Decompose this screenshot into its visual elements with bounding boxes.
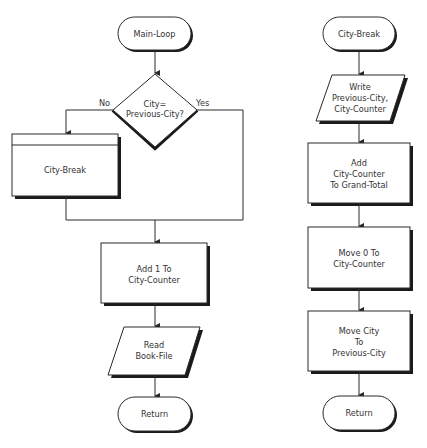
city-break-start-label: City-Break bbox=[338, 29, 380, 39]
yes-branch-label: Yes bbox=[195, 98, 209, 108]
write-output-io: Write Previous-City, City-Counter bbox=[316, 75, 408, 124]
add-total-line2: City-Counter bbox=[333, 169, 385, 179]
left-return-label: Return bbox=[141, 409, 168, 419]
city-break-subprocess: City-Break bbox=[12, 134, 121, 199]
add-counter-process: Add 1 To City-Counter bbox=[101, 243, 210, 306]
add-grand-total-process: Add City-Counter To Grand-Total bbox=[308, 143, 413, 206]
move-city-process: Move City To Previous-City bbox=[308, 311, 413, 374]
move-city-line3: Previous-City bbox=[332, 348, 386, 358]
merge-connector bbox=[66, 196, 243, 220]
add-counter-line2: City-Counter bbox=[128, 275, 180, 285]
right-return-terminator: Return bbox=[323, 396, 397, 432]
move-city-line1: Move City bbox=[339, 326, 380, 336]
city-break-terminator: City-Break bbox=[323, 17, 397, 52]
add-total-line3: To Grand-Total bbox=[329, 180, 388, 190]
read-book-file-io: Read Book-File bbox=[108, 327, 203, 378]
yes-branch-connector bbox=[197, 110, 243, 220]
write-line3: City-Counter bbox=[334, 104, 386, 114]
write-line2: Previous-City, bbox=[332, 93, 388, 103]
move-zero-line1: Move 0 To bbox=[339, 248, 380, 258]
decision-label-line2: Previous-City? bbox=[126, 109, 184, 119]
no-branch-label: No bbox=[99, 98, 110, 108]
decision-label-line1: City= bbox=[144, 99, 167, 109]
decision-diamond: City= Previous-City? bbox=[113, 74, 197, 148]
move-zero-line2: City-Counter bbox=[333, 259, 385, 269]
right-return-label: Return bbox=[345, 408, 372, 418]
read-line1: Read bbox=[144, 340, 165, 350]
add-counter-line1: Add 1 To bbox=[137, 264, 172, 274]
main-loop-label: Main-Loop bbox=[133, 29, 175, 39]
read-line2: Book-File bbox=[135, 351, 172, 361]
no-branch-connector bbox=[66, 110, 113, 133]
write-line1: Write bbox=[349, 82, 371, 92]
add-total-line1: Add bbox=[351, 158, 367, 168]
move-city-line2: To bbox=[354, 337, 364, 347]
flowchart-canvas: Main-Loop City= Previous-City? No Yes Ci… bbox=[0, 0, 427, 448]
city-break-label: City-Break bbox=[44, 165, 86, 175]
move-zero-process: Move 0 To City-Counter bbox=[308, 227, 413, 291]
left-return-terminator: Return bbox=[118, 397, 193, 433]
main-loop-terminator: Main-Loop bbox=[118, 17, 193, 52]
